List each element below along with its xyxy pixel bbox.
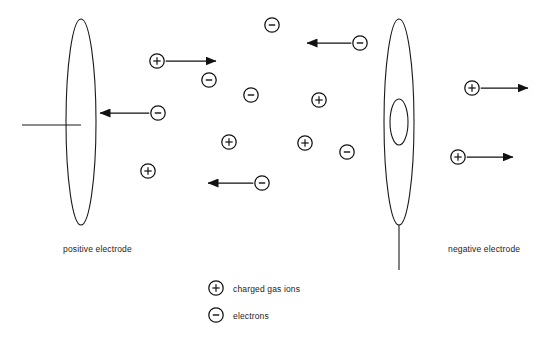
- legend-electron-icon: [209, 308, 223, 322]
- ion-particle-11: [298, 136, 312, 150]
- legend-label-electrons: electrons: [233, 311, 269, 321]
- positive-electrode: [22, 19, 96, 225]
- electron-particle-6: [265, 18, 279, 32]
- ion-particle-10: [222, 135, 236, 149]
- negative-electrode-aperture-icon: [390, 99, 408, 145]
- particles-group: [141, 18, 479, 190]
- negative-electrode-label: negative electrode: [448, 244, 520, 254]
- electron-particle-3: [255, 176, 269, 190]
- negative-electrode: [384, 19, 414, 270]
- legend-label-charged-gas-ions: charged gas ions: [233, 284, 300, 294]
- positive-electrode-body: [66, 19, 96, 225]
- ion-particle-13: [141, 164, 155, 178]
- positive-electrode-label: positive electrode: [63, 244, 132, 254]
- ion-particle-4: [465, 81, 479, 95]
- legend-symbols-group: [209, 281, 223, 322]
- electron-particle-1: [151, 106, 165, 120]
- ion-particle-9: [312, 93, 326, 107]
- diagram-svg: [0, 0, 549, 351]
- electron-particle-8: [244, 88, 258, 102]
- electron-particle-12: [340, 145, 354, 159]
- diagram-canvas: positive electrode negative electrode ch…: [0, 0, 549, 351]
- negative-electrode-body: [384, 19, 414, 225]
- ion-particle-5: [451, 150, 465, 164]
- legend-ion-icon: [209, 281, 223, 295]
- electrodes-group: [22, 19, 414, 270]
- electron-particle-2: [353, 36, 367, 50]
- electron-particle-7: [202, 73, 216, 87]
- ion-particle-0: [150, 54, 164, 68]
